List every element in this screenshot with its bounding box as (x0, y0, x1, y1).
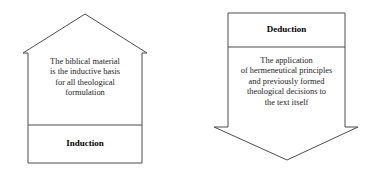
diagram-shapes (0, 0, 382, 175)
induction-house-outline (23, 14, 147, 163)
deduction-arrow-outline (214, 13, 358, 160)
deduction-shape-group (214, 13, 358, 160)
diagram-canvas: The biblical material is the inductive b… (0, 0, 382, 175)
induction-shape-group (23, 14, 147, 163)
